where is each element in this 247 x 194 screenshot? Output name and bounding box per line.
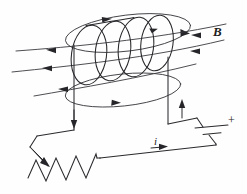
battery-positive-label: + — [228, 114, 235, 126]
arrow-current-up — [179, 99, 185, 118]
arrow-into-resistor — [33, 150, 50, 167]
arrow-current-down — [71, 110, 77, 129]
solenoid-coil — [67, 13, 176, 87]
magnetic-field-label: B — [213, 25, 222, 38]
resistor — [28, 154, 97, 181]
battery — [195, 125, 228, 135]
physics-figure: B i + — [0, 0, 247, 194]
circuit-wires — [30, 45, 216, 166]
figure-canvas — [0, 0, 247, 194]
current-label: i — [154, 136, 157, 147]
field-loop-bottom — [64, 68, 183, 112]
